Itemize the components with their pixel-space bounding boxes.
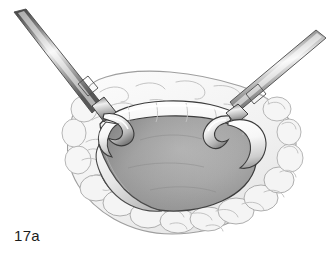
figure-label: 17a <box>14 228 40 243</box>
figure-container: 17a <box>0 0 330 262</box>
surgical-illustration <box>0 0 330 262</box>
